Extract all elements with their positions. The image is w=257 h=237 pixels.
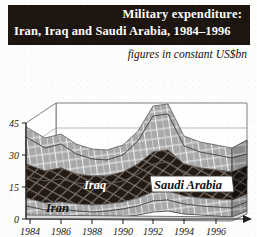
xtick-label-1984: 1984 — [20, 226, 40, 237]
ytick-label-15: 15 — [9, 182, 19, 193]
series-label-iran: Iran — [45, 201, 69, 215]
chart-plot-area: 45 30 15 0 1984 1986 1988 1990 1992 1994… — [0, 88, 257, 237]
title-block: Military expenditure: Iran, Iraq and Sau… — [8, 5, 250, 45]
stacked-area-chart: 45 30 15 0 1984 1986 1988 1990 1992 1994… — [0, 88, 257, 237]
ytick-label-45: 45 — [9, 118, 19, 129]
xtick-label-1996: 1996 — [206, 226, 226, 237]
chart-title-line-2: Iran, Iraq and Saudi Arabia, 1984–1996 — [14, 24, 231, 39]
xtick-label-1990: 1990 — [113, 226, 133, 237]
figure: Military expenditure: Iran, Iraq and Sau… — [0, 0, 257, 237]
series-label-saudi-arabia: Saudi Arabia — [154, 178, 222, 192]
xtick-label-1992: 1992 — [143, 226, 163, 237]
chart-title-line-1: Military expenditure: — [122, 7, 242, 22]
xtick-label-1994: 1994 — [174, 226, 194, 237]
ytick-label-0: 0 — [14, 214, 19, 225]
ytick-label-30: 30 — [8, 150, 19, 161]
xtick-label-1988: 1988 — [82, 226, 102, 237]
xtick-label-1986: 1986 — [51, 226, 71, 237]
chart-subtitle: figures in constant US$bn — [128, 48, 247, 60]
series-label-iraq: Iraq — [83, 178, 106, 192]
